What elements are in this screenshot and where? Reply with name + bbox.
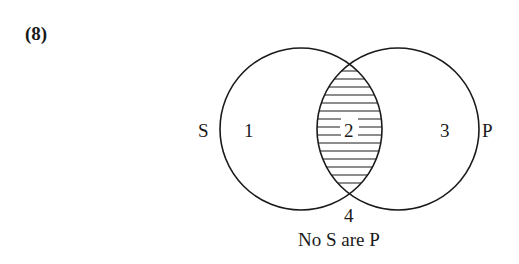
region-label-2: 2 bbox=[344, 121, 354, 140]
region-label-4: 4 bbox=[344, 206, 354, 225]
region-label-3: 3 bbox=[440, 121, 450, 140]
set-label-p: P bbox=[482, 121, 493, 140]
region-label-1: 1 bbox=[244, 121, 254, 140]
diagram-caption: No S are P bbox=[298, 230, 380, 249]
circle-p bbox=[317, 48, 479, 210]
set-label-s: S bbox=[198, 121, 209, 140]
